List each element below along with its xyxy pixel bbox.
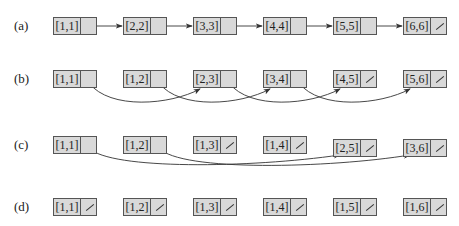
node-pointer: [81, 137, 96, 153]
list-node: [1,2]: [123, 136, 167, 154]
node-pointer: [291, 71, 306, 87]
list-node: [1,4]: [263, 198, 307, 216]
null-pointer: [81, 199, 96, 215]
node-key: [2,3]: [194, 71, 221, 87]
node-key: [5,6]: [404, 71, 431, 87]
null-pointer: [221, 137, 236, 153]
null-pointer: [151, 199, 166, 215]
null-slash-icon: [226, 142, 234, 149]
node-key: [3,4]: [264, 71, 291, 87]
node-key: [2,5]: [334, 140, 361, 156]
node-pointer: [221, 71, 236, 87]
node-pointer: [291, 18, 306, 34]
null-pointer: [291, 199, 306, 215]
node-key: [1,3]: [194, 137, 221, 153]
list-node: [2,5]: [333, 139, 377, 157]
null-slash-icon: [156, 204, 164, 211]
list-node: [5,5]: [333, 17, 377, 35]
list-node: [5,6]: [403, 70, 447, 88]
list-node: [3,6]: [403, 139, 447, 157]
node-key: [1,3]: [194, 199, 221, 215]
null-pointer: [431, 71, 446, 87]
list-node: [1,3]: [193, 198, 237, 216]
node-key: [1,4]: [264, 199, 291, 215]
node-key: [1,2]: [124, 137, 151, 153]
node-pointer: [151, 137, 166, 153]
node-pointer: [151, 71, 166, 87]
node-key: [6,6]: [404, 18, 431, 34]
list-node: [4,4]: [263, 17, 307, 35]
node-key: [2,2]: [124, 18, 151, 34]
node-key: [1,6]: [404, 199, 431, 215]
null-pointer: [291, 137, 306, 153]
list-node: [3,3]: [193, 17, 237, 35]
null-slash-icon: [296, 142, 304, 149]
null-slash-icon: [226, 204, 234, 211]
node-key: [1,1]: [54, 199, 81, 215]
node-key: [4,5]: [334, 71, 361, 87]
node-key: [4,4]: [264, 18, 291, 34]
node-pointer: [151, 18, 166, 34]
null-slash-icon: [436, 204, 444, 211]
list-node: [1,5]: [333, 198, 377, 216]
node-key: [1,1]: [54, 18, 81, 34]
list-node: [1,1]: [53, 70, 97, 88]
list-node: [1,1]: [53, 198, 97, 216]
node-pointer: [221, 18, 236, 34]
list-node: [6,6]: [403, 17, 447, 35]
null-slash-icon: [366, 204, 374, 211]
node-key: [3,6]: [404, 140, 431, 156]
null-pointer: [361, 140, 376, 156]
list-node: [1,2]: [123, 70, 167, 88]
node-key: [5,5]: [334, 18, 361, 34]
null-pointer: [221, 199, 236, 215]
node-pointer: [81, 18, 96, 34]
null-slash-icon: [296, 204, 304, 211]
null-slash-icon: [436, 23, 444, 30]
null-slash-icon: [436, 76, 444, 83]
null-pointer: [431, 199, 446, 215]
list-node: [2,3]: [193, 70, 237, 88]
node-pointer: [81, 71, 96, 87]
node-key: [1,5]: [334, 199, 361, 215]
node-key: [1,2]: [124, 199, 151, 215]
list-node: [1,3]: [193, 136, 237, 154]
node-key: [3,3]: [194, 18, 221, 34]
node-key: [1,2]: [124, 71, 151, 87]
null-slash-icon: [86, 204, 94, 211]
null-slash-icon: [436, 145, 444, 152]
node-pointer: [361, 18, 376, 34]
null-pointer: [361, 71, 376, 87]
null-slash-icon: [366, 145, 374, 152]
node-key: [1,1]: [54, 137, 81, 153]
node-key: [1,1]: [54, 71, 81, 87]
list-node: [4,5]: [333, 70, 377, 88]
list-node: [1,4]: [263, 136, 307, 154]
list-node: [2,2]: [123, 17, 167, 35]
list-node: [1,1]: [53, 136, 97, 154]
list-node: [1,1]: [53, 17, 97, 35]
null-pointer: [361, 199, 376, 215]
node-key: [1,4]: [264, 137, 291, 153]
list-node: [1,6]: [403, 198, 447, 216]
null-pointer: [431, 140, 446, 156]
null-pointer: [431, 18, 446, 34]
null-slash-icon: [366, 76, 374, 83]
list-node: [3,4]: [263, 70, 307, 88]
list-node: [1,2]: [123, 198, 167, 216]
